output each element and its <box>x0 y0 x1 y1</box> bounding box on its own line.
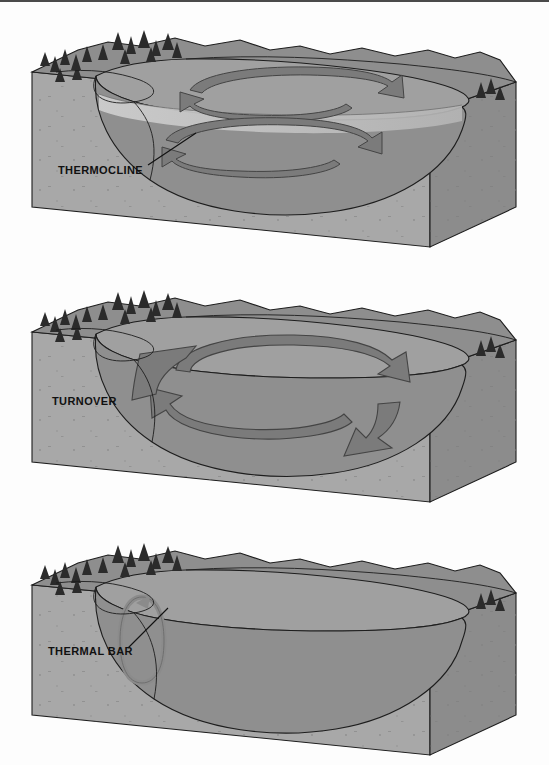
turnover-diagram: TURNOVER <box>0 262 549 517</box>
panel-thermal-bar: THERMAL BAR <box>0 517 549 765</box>
panel-thermocline: THERMOCLINE <box>0 2 549 260</box>
thermal-bar-diagram: THERMAL BAR <box>0 517 549 765</box>
panel-turnover: TURNOVER <box>0 262 549 517</box>
label-turnover: TURNOVER <box>52 395 117 407</box>
thermocline-diagram: THERMOCLINE <box>0 2 549 260</box>
label-thermal-bar: THERMAL BAR <box>48 645 133 657</box>
label-thermocline: THERMOCLINE <box>58 164 143 176</box>
